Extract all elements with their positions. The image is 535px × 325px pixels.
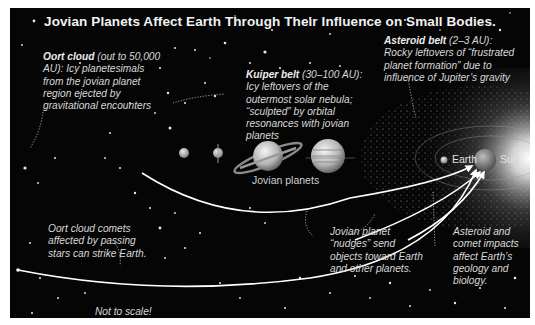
planet-earth xyxy=(474,149,496,171)
planet-mars xyxy=(441,157,448,164)
annotation-asteroid-belt-heading: Asteroid belt xyxy=(384,35,446,46)
annotation-jovian-nudges: Jovian planet “nudges” send objects towa… xyxy=(330,226,425,275)
diagram-panel: Jovian Planets Affect Earth Through Thei… xyxy=(10,8,530,318)
annotation-oort-cloud: Oort cloud (out to 50,000 AU): Icy plane… xyxy=(43,51,163,112)
annotation-oort-cloud-heading: Oort cloud xyxy=(43,51,95,62)
scale-note: Not to scale! xyxy=(95,306,152,318)
annotation-asteroid-belt: Asteroid belt (2–3 AU): Rocky leftovers … xyxy=(384,35,519,84)
annotation-kuiper-belt: Kuiper belt (30–100 AU): Icy leftovers o… xyxy=(246,69,371,143)
planet-uranus xyxy=(213,144,223,163)
label-sun: Sun xyxy=(500,153,519,165)
annotation-kuiper-belt-heading: Kuiper belt xyxy=(246,69,299,80)
diagram-title: Jovian Planets Affect Earth Through Thei… xyxy=(10,14,530,29)
planet-saturn xyxy=(232,138,304,178)
label-jovian-planets: Jovian planets xyxy=(252,174,319,186)
annotation-oort-comets: Oort cloud comets affected by passing st… xyxy=(48,223,158,260)
planet-neptune xyxy=(179,148,189,158)
annotation-impacts: Asteroid and comet impacts affect Earth’… xyxy=(453,226,528,287)
label-earth: Earth xyxy=(452,153,477,165)
comet-origin-dot xyxy=(16,268,20,272)
